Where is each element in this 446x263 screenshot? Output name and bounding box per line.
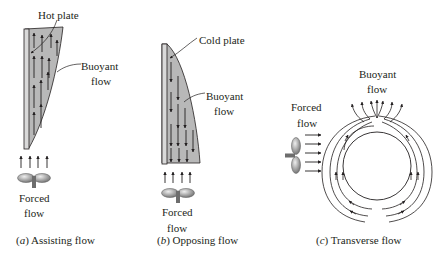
forced-label-a-line2: flow xyxy=(24,207,44,219)
caption-b-letter: b xyxy=(161,234,167,246)
fan-icon-a xyxy=(18,174,51,189)
forced-label-c-line2: flow xyxy=(297,117,317,129)
buoyant-label-b-line1: Buoyant xyxy=(206,90,243,102)
panel-b-diagram xyxy=(162,38,206,203)
buoyant-label-b-line2: flow xyxy=(214,105,234,117)
caption-c-text: Transverse flow xyxy=(331,234,402,246)
hot-plate-label: Hot plate xyxy=(38,9,79,21)
caption-b: (b) Opposing flow xyxy=(157,234,238,246)
forced-arrows-up-a xyxy=(21,156,47,168)
panel-a-diagram xyxy=(18,20,82,188)
buoyant-boundary-layer-b xyxy=(162,44,200,163)
caption-b-text: Opposing flow xyxy=(173,234,239,246)
fan-icon-b xyxy=(162,189,195,204)
caption-a: (a) Assisting flow xyxy=(16,234,95,246)
buoyant-label-c-line2: flow xyxy=(367,83,387,95)
caption-c: (c) Transverse flow xyxy=(316,234,402,246)
cold-plate-label: Cold plate xyxy=(199,34,245,46)
forced-label-b-line1: Forced xyxy=(162,206,193,218)
fan-icon-c xyxy=(285,138,301,174)
cold-plate-leader-line xyxy=(170,38,197,58)
caption-a-text: Assisting flow xyxy=(31,234,95,246)
buoyant-leader-line-a xyxy=(57,64,81,72)
buoyant-label-c-line1: Buoyant xyxy=(359,68,396,80)
hot-plate xyxy=(24,29,29,149)
forced-label-c-line1: Forced xyxy=(291,101,322,113)
buoyant-label-a-line1: Buoyant xyxy=(81,60,118,72)
forced-arrows-up-b xyxy=(165,172,190,183)
forced-arrows-right-c xyxy=(305,135,321,171)
forced-label-b-line2: flow xyxy=(167,222,187,234)
forced-label-a-line1: Forced xyxy=(19,192,50,204)
buoyant-label-a-line2: flow xyxy=(91,75,111,87)
cold-plate xyxy=(162,44,167,164)
caption-c-letter: c xyxy=(320,234,325,246)
cylinder xyxy=(343,132,411,200)
caption-a-letter: a xyxy=(20,234,26,246)
